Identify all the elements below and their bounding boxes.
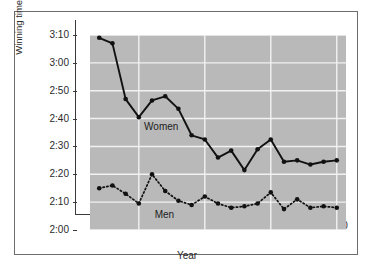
series-women-line — [97, 35, 339, 172]
y-tick-label: 2:30 — [29, 141, 69, 151]
gridlines — [90, 35, 346, 230]
y-tick-label: 2:10 — [29, 197, 69, 207]
chart-figure: Winning time (hours:minutes) 2:002:102:2… — [0, 0, 372, 270]
y-tick-label: 2:20 — [29, 169, 69, 179]
series-label-men: Men — [155, 209, 174, 220]
plot-area: WomenMen — [90, 35, 346, 230]
series-label-women: Women — [144, 121, 178, 132]
y-tick-mark — [73, 230, 77, 231]
y-axis-line — [75, 20, 76, 215]
y-tick-label: 3:00 — [29, 58, 69, 68]
y-tick-label: 2:00 — [29, 225, 69, 235]
y-tick-label: 3:10 — [29, 30, 69, 40]
y-tick-label: 2:50 — [29, 86, 69, 96]
y-tick-label: 2:40 — [29, 114, 69, 124]
y-axis-title: Winning time (hours:minutes) — [13, 0, 24, 68]
x-axis-title: Year — [15, 250, 359, 261]
chart-frame: Winning time (hours:minutes) 2:002:102:2… — [14, 11, 358, 255]
chart-svg — [90, 35, 346, 230]
series-men-line — [97, 172, 339, 211]
